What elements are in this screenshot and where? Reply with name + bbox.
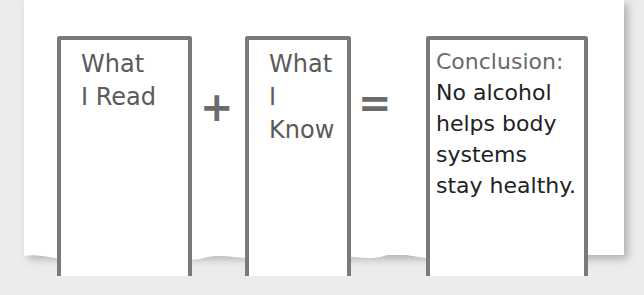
conclusion-box: Conclusion: No alcohol helps body system…: [426, 36, 588, 276]
plus-icon: +: [200, 84, 234, 130]
conclusion-line-1: No alcohol: [436, 77, 576, 108]
conclusion-line-3: systems: [436, 139, 576, 170]
box2-line2: I Know: [269, 81, 347, 147]
conclusion-line-2: helps body: [436, 108, 576, 139]
equals-icon: =: [358, 80, 392, 126]
box1-line1: What: [81, 48, 156, 81]
conclusion-line-4: stay healthy.: [436, 170, 576, 201]
what-i-know-box: What I Know: [245, 36, 351, 276]
what-i-read-box: What I Read: [57, 36, 192, 276]
box2-line1: What: [269, 48, 347, 81]
box1-line2: I Read: [81, 81, 156, 114]
conclusion-title: Conclusion:: [436, 46, 576, 77]
